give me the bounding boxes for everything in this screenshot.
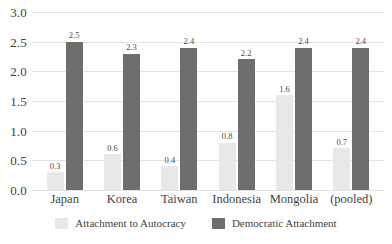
chart-legend: Attachment to AutocracyDemocratic Attach… xyxy=(0,218,392,229)
legend-swatch-icon xyxy=(55,218,68,229)
bar-value-label: 2.5 xyxy=(69,31,80,40)
legend-swatch-icon xyxy=(212,218,225,229)
y-axis-tick-label: 1.0 xyxy=(10,124,27,137)
y-axis-tick-label: 0.0 xyxy=(10,184,27,197)
bar-groups: 0.32.50.62.30.42.40.82.21.62.40.72.4 xyxy=(32,12,384,190)
bar-value-label: 2.4 xyxy=(298,37,309,46)
bar-group: 0.82.2 xyxy=(208,12,265,190)
bar-autocracy[interactable]: 0.8 xyxy=(219,143,236,190)
bar-slot: 2.2 xyxy=(238,12,255,190)
x-axis-tick-label: Japan xyxy=(36,192,93,212)
bar-slot: 2.4 xyxy=(180,12,197,190)
bar-democratic[interactable]: 2.3 xyxy=(123,54,140,190)
x-axis-tick-label: Taiwan xyxy=(151,192,208,212)
bar-democratic[interactable]: 2.5 xyxy=(66,42,83,190)
y-axis: 3.02.52.01.51.00.50.0 xyxy=(0,12,32,190)
y-axis-tick-label: 1.5 xyxy=(10,95,27,108)
bar-democratic[interactable]: 2.4 xyxy=(295,48,312,190)
legend-label: Attachment to Autocracy xyxy=(75,218,186,229)
bar-slot: 1.6 xyxy=(276,12,293,190)
bar-slot: 2.5 xyxy=(66,12,83,190)
bar-autocracy[interactable]: 0.3 xyxy=(47,172,64,190)
bar-value-label: 2.4 xyxy=(184,37,195,46)
y-axis-tick-label: 0.5 xyxy=(10,154,27,167)
bar-autocracy[interactable]: 0.6 xyxy=(104,154,121,190)
bar-value-label: 0.4 xyxy=(165,156,176,165)
bar-value-label: 2.4 xyxy=(355,37,366,46)
bar-slot: 0.4 xyxy=(161,12,178,190)
bar-autocracy[interactable]: 0.7 xyxy=(333,148,350,190)
y-axis-tick-label: 2.0 xyxy=(10,65,27,78)
bar-value-label: 0.8 xyxy=(222,132,233,141)
plot-area: 0.32.50.62.30.42.40.82.21.62.40.72.4 xyxy=(32,12,384,190)
bar-autocracy[interactable]: 0.4 xyxy=(161,166,178,190)
x-axis-tick-label: (pooled) xyxy=(323,192,380,212)
bar-group: 0.32.5 xyxy=(36,12,93,190)
bar-value-label: 0.6 xyxy=(107,144,118,153)
bar-slot: 0.8 xyxy=(219,12,236,190)
bar-slot: 0.3 xyxy=(47,12,64,190)
bar-slot: 2.3 xyxy=(123,12,140,190)
x-axis-tick-label: Korea xyxy=(93,192,150,212)
bar-value-label: 2.2 xyxy=(241,49,252,58)
bar-value-label: 0.7 xyxy=(336,138,347,147)
bar-slot: 0.7 xyxy=(333,12,350,190)
bar-value-label: 0.3 xyxy=(50,162,61,171)
bar-autocracy[interactable]: 1.6 xyxy=(276,95,293,190)
bar-group: 1.62.4 xyxy=(265,12,322,190)
x-axis-tick-label: Indonesia xyxy=(208,192,265,212)
bar-chart: 3.02.52.01.51.00.50.0 0.32.50.62.30.42.4… xyxy=(0,0,392,244)
bar-group: 0.62.3 xyxy=(93,12,150,190)
x-axis-tick-label: Mongolia xyxy=(265,192,322,212)
legend-item-autocracy[interactable]: Attachment to Autocracy xyxy=(55,218,186,229)
bar-slot: 0.6 xyxy=(104,12,121,190)
bar-group: 0.72.4 xyxy=(323,12,380,190)
legend-label: Democratic Attachment xyxy=(232,218,337,229)
y-axis-tick-label: 2.5 xyxy=(10,35,27,48)
bar-value-label: 2.3 xyxy=(126,43,137,52)
bar-democratic[interactable]: 2.4 xyxy=(180,48,197,190)
y-axis-tick-label: 3.0 xyxy=(10,6,27,19)
bar-slot: 2.4 xyxy=(352,12,369,190)
gridline xyxy=(32,190,384,191)
bar-group: 0.42.4 xyxy=(151,12,208,190)
bar-slot: 2.4 xyxy=(295,12,312,190)
bar-value-label: 1.6 xyxy=(279,85,290,94)
bar-democratic[interactable]: 2.4 xyxy=(352,48,369,190)
legend-item-democratic[interactable]: Democratic Attachment xyxy=(212,218,337,229)
x-axis: JapanKoreaTaiwanIndonesiaMongolia(pooled… xyxy=(32,192,384,212)
bar-democratic[interactable]: 2.2 xyxy=(238,59,255,190)
